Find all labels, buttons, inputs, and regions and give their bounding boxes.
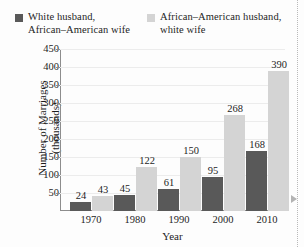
bar-white-husband[interactable] (114, 195, 135, 211)
play-triangle-icon (291, 195, 297, 203)
bar-group-1970: 24 43 (70, 49, 113, 211)
bar-white-husband[interactable] (70, 202, 91, 211)
plot-area: 24 43 45 122 61 150 95 268 (60, 49, 285, 211)
x-tick-label: 1970 (69, 214, 113, 226)
chart-legend: White husband, African–American wife Afr… (0, 11, 297, 41)
y-axis-title: Number of Marriages (thousands) (36, 49, 62, 207)
bar-value-label: 95 (196, 165, 230, 176)
dark-square-icon (15, 14, 23, 22)
bar-white-husband[interactable] (158, 189, 179, 211)
x-tick-label: 2010 (245, 214, 289, 226)
bar-aa-husband[interactable] (224, 115, 245, 211)
x-tick-label: 1980 (113, 214, 157, 226)
x-tick-label: 2000 (201, 214, 245, 226)
bar-value-label: 390 (262, 59, 296, 70)
bar-value-label: 45 (108, 183, 142, 194)
legend-item-label: White husband, African–American wife (28, 11, 130, 36)
bar-value-label: 168 (240, 139, 274, 150)
bar-white-husband[interactable] (246, 151, 267, 211)
bar-group-1980: 45 122 (114, 49, 157, 211)
x-axis-title: Year (60, 230, 285, 242)
bar-value-label: 61 (152, 177, 186, 188)
bar-white-husband[interactable] (202, 177, 223, 211)
legend-item-african-american-husband: African–American husband, white wife (147, 11, 281, 36)
bar-group-2010: 168 390 (246, 49, 289, 211)
legend-item-white-husband: White husband, African–American wife (15, 11, 130, 36)
bar-group-1990: 61 150 (158, 49, 201, 211)
bar-series-container: 24 43 45 122 61 150 95 268 (60, 49, 285, 211)
bar-group-2000: 95 268 (202, 49, 245, 211)
page-edge-divider (297, 0, 298, 247)
bar-chart-figure: White husband, African–American wife Afr… (0, 0, 304, 247)
x-axis-tick-labels: 1970 1980 1990 2000 2010 (60, 214, 285, 228)
legend-item-label: African–American husband, white wife (160, 11, 281, 36)
y-axis-title-wrap: Number of Marriages (thousands) (22, 49, 36, 211)
light-square-icon (147, 14, 155, 22)
x-tick-label: 1990 (157, 214, 201, 226)
